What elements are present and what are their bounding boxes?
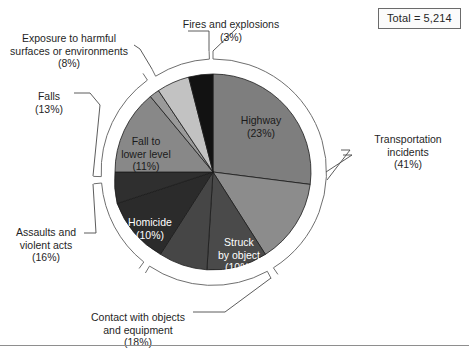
callout-contact: Contact with objects and equipment (18%) (82, 299, 194, 349)
slice-label-struck-by-object: Struck by object (10%) (200, 224, 278, 274)
callout-assaults: Assaults and violent acts (16%) (6, 214, 86, 264)
figure-canvas: Fires and explosions (3%) Exposure to ha… (0, 0, 469, 359)
leader-line-transportation-right (327, 150, 350, 180)
slice-label-fall-to-lower-level: Fall to lower level (11%) (104, 123, 188, 173)
callout-falls-text: Falls (13%) (35, 90, 63, 114)
slice-label-highway-text: Highway (23%) (241, 114, 281, 138)
slice-label-struck-text: Struck by object (10%) (218, 236, 260, 273)
slice-label-homicide: Homicide (10%) (112, 204, 188, 241)
slice-label-highway: Highway (23%) (220, 102, 302, 139)
slice-label-fall-text: Fall to lower level (11%) (121, 135, 171, 172)
leader-line-exposure (134, 45, 152, 69)
callout-exposure: Exposure to harmful surfaces or environm… (2, 20, 136, 70)
callout-transportation: Transportation incidents (41%) (356, 121, 460, 171)
callout-transportation-text: Transportation incidents (41%) (374, 133, 441, 170)
slice-label-homicide-text: Homicide (10%) (128, 216, 172, 240)
callout-falls: Falls (13%) (20, 78, 78, 115)
total-badge-text: Total = 5,214 (387, 12, 452, 24)
callout-contact-text: Contact with objects and equipment (18%) (91, 311, 185, 348)
ring-arc-exposure (156, 59, 210, 76)
leader-line-contact (193, 278, 271, 312)
callout-assaults-text: Assaults and violent acts (16%) (16, 226, 76, 263)
total-badge: Total = 5,214 (378, 8, 461, 29)
callout-exposure-text: Exposure to harmful surfaces or environm… (10, 32, 128, 69)
callout-fires-text: Fires and explosions (3%) (183, 18, 279, 42)
footer-divider (0, 345, 469, 346)
callout-fires-and-explosions: Fires and explosions (3%) (166, 6, 296, 43)
